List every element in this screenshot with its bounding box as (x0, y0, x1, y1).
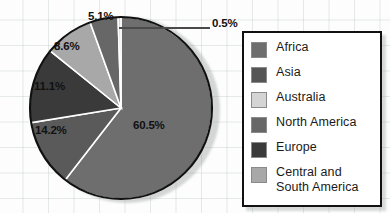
legend-item-north-america[interactable]: North America (251, 115, 374, 140)
legend-swatch-asia (251, 67, 267, 83)
legend-item-europe[interactable]: Europe (251, 140, 374, 165)
legend-label-line2: South America (276, 180, 359, 195)
legend-label-asia: Asia (276, 65, 301, 80)
legend-item-central-south-america[interactable]: Central andSouth America (251, 165, 374, 205)
legend-item-asia[interactable]: Asia (251, 65, 374, 90)
slice-label-africa: 60.5% (133, 119, 165, 131)
legend-swatch-africa (251, 42, 267, 58)
legend-label-north-america: North America (276, 115, 357, 130)
slice-label-central-south-america: 8.6% (54, 40, 79, 52)
legend-label-line1: Central and (276, 165, 359, 180)
legend-label-europe: Europe (276, 140, 317, 155)
legend: Africa Asia Australia North America Euro… (242, 31, 382, 207)
slice-label-europe: 11.1% (34, 80, 65, 92)
legend-swatch-north-america (251, 117, 267, 133)
legend-label-central-south-america: Central andSouth America (276, 165, 359, 195)
legend-item-australia[interactable]: Australia (251, 90, 374, 115)
slice-label-asia: 14.2% (35, 124, 67, 136)
slice-label-north-america: 5.1% (88, 10, 113, 22)
pie-chart-figure: 60.5% 14.2% 11.1% 8.6% 5.1% 0.5% Africa … (0, 0, 390, 213)
legend-swatch-europe (251, 142, 267, 158)
legend-swatch-australia (251, 92, 267, 108)
legend-label-africa: Africa (276, 40, 309, 55)
legend-swatch-central-south-america (251, 167, 267, 183)
legend-label-australia: Australia (276, 90, 326, 105)
slice-label-australia: 0.5% (212, 17, 237, 29)
legend-item-africa[interactable]: Africa (251, 40, 374, 65)
leader-line-australia (119, 27, 210, 29)
